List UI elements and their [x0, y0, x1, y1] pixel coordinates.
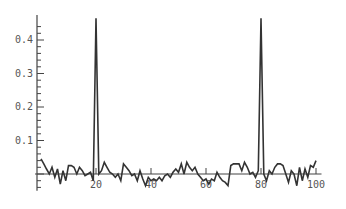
data-series — [41, 18, 316, 186]
y-tick-label: 0.2 — [15, 101, 33, 112]
y-axis: 0.10.20.30.4 — [15, 15, 44, 191]
line-chart: 0.10.20.30.4 20406080100 — [0, 0, 346, 209]
x-tick-label: 100 — [307, 179, 325, 190]
series-line — [41, 18, 316, 186]
y-tick-label: 0.1 — [15, 135, 33, 146]
y-tick-label: 0.3 — [15, 68, 33, 79]
x-tick-label: 80 — [255, 179, 267, 190]
x-tick-label: 20 — [90, 179, 102, 190]
y-tick-label: 0.4 — [15, 34, 33, 45]
